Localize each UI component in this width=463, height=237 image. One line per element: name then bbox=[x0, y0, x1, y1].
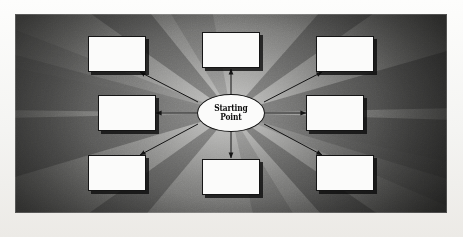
diagram-panel: Starting Point bbox=[15, 14, 447, 213]
node-top-center[interactable] bbox=[202, 32, 260, 68]
node-top-right[interactable] bbox=[316, 36, 374, 72]
node-bottom-left[interactable] bbox=[88, 155, 146, 191]
diagram-stage: Starting Point bbox=[0, 0, 463, 237]
node-middle-right[interactable] bbox=[306, 95, 364, 131]
node-top-left[interactable] bbox=[88, 36, 146, 72]
center-node-label: Starting Point bbox=[214, 104, 247, 123]
center-node-starting-point[interactable]: Starting Point bbox=[197, 94, 265, 132]
node-bottom-center[interactable] bbox=[202, 159, 260, 195]
node-bottom-right[interactable] bbox=[316, 155, 374, 191]
node-middle-left[interactable] bbox=[98, 95, 156, 131]
